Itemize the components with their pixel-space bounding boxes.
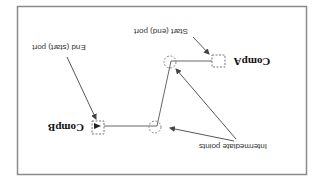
start-end-port-label: Start (end) port (133, 27, 188, 36)
intermediate-points-label: Intermediate points (199, 142, 267, 151)
comp-a-label: CompA (234, 56, 271, 68)
diagram-canvas: CompA CompB Start (end) port End (start)… (0, 0, 323, 182)
end-start-port-label: End (start) port (32, 43, 86, 52)
comp-b-label: CompB (47, 122, 84, 134)
